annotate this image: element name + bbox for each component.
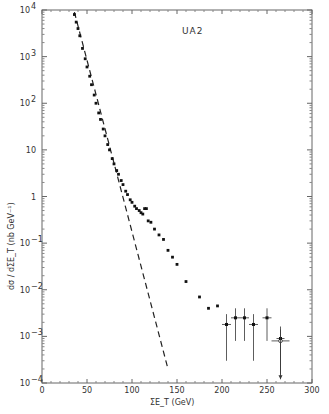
y-tick-exponent: 3 — [31, 49, 36, 58]
data-point — [106, 143, 109, 146]
y-tick-label: 10 — [20, 379, 30, 388]
tick-labels: 05010015020025030010410310210110−110−210… — [20, 2, 320, 395]
axis-ticks — [42, 10, 312, 383]
data-point — [99, 118, 102, 121]
data-point — [77, 27, 80, 30]
data-point — [86, 66, 89, 69]
data-point — [158, 234, 161, 237]
y-tick-exponent: −3 — [31, 328, 43, 337]
data-point — [162, 238, 165, 241]
data-point — [147, 219, 150, 222]
dashed-line — [74, 12, 168, 369]
y-tick-exponent: 2 — [31, 95, 36, 104]
plot-frame — [42, 10, 312, 383]
data-point — [75, 21, 78, 24]
data-point — [234, 316, 237, 319]
data-point — [129, 198, 132, 201]
y-tick-exponent: −2 — [31, 282, 43, 291]
x-tick-label: 200 — [214, 386, 229, 395]
data-point — [216, 305, 219, 308]
data-point — [153, 228, 156, 231]
y-tick-label: 10 — [26, 146, 36, 155]
data-point — [126, 193, 129, 196]
experiment-label: UA2 — [182, 26, 203, 36]
data-point — [117, 173, 120, 176]
data-point — [243, 316, 246, 319]
data-point — [185, 280, 188, 283]
plot-axes — [42, 10, 312, 383]
data-point — [207, 307, 210, 310]
data-point — [135, 207, 138, 210]
x-tick-label: 300 — [304, 386, 319, 395]
x-tick-label: 0 — [39, 386, 44, 395]
data-point — [73, 13, 76, 16]
data-point — [120, 179, 123, 182]
data-point — [93, 94, 96, 97]
data-point — [167, 249, 170, 252]
data-point — [150, 221, 153, 224]
data-point — [145, 207, 148, 210]
data-point — [171, 256, 174, 259]
data-point — [108, 148, 111, 151]
x-tick-label: 50 — [82, 386, 92, 395]
y-tick-label: 10 — [20, 239, 30, 248]
data-point — [252, 323, 255, 326]
x-tick-label: 250 — [259, 386, 274, 395]
data-point — [176, 263, 179, 266]
y-axis-title: dσ / dΣE_T (nb GeV⁻¹) — [7, 202, 16, 290]
data-point — [84, 57, 87, 60]
data-point — [225, 323, 228, 326]
y-tick-exponent: 4 — [31, 2, 36, 11]
data-point — [97, 112, 100, 115]
data-point — [266, 316, 269, 319]
y-tick-label: 10 — [20, 286, 30, 295]
x-axis-title: ΣE_T (GeV) — [150, 398, 194, 407]
y-tick-label: 10 — [20, 53, 30, 62]
y-tick-exponent: −4 — [31, 375, 43, 384]
chart: 05010015020025030010410310210110−110−210… — [0, 0, 329, 414]
y-tick-label: 10 — [20, 332, 30, 341]
data-point — [131, 201, 134, 204]
data-point — [198, 296, 201, 299]
data-point — [78, 34, 81, 37]
y-tick-label: 10 — [20, 6, 30, 15]
data-points — [73, 13, 290, 379]
data-point — [115, 169, 118, 172]
data-point — [104, 134, 107, 137]
dashed-extrapolation-line — [74, 12, 168, 369]
data-point — [111, 157, 114, 160]
data-point — [133, 205, 136, 208]
data-point — [102, 128, 105, 131]
data-point — [124, 190, 127, 193]
x-tick-label: 150 — [169, 386, 184, 395]
data-point — [90, 83, 93, 86]
y-tick-label: 10 — [20, 99, 30, 108]
data-point — [95, 102, 98, 105]
data-point — [122, 183, 125, 186]
y-tick-exponent: −1 — [31, 235, 43, 244]
data-point — [88, 75, 91, 78]
arrow-down-icon — [279, 375, 283, 379]
data-point — [81, 47, 84, 50]
y-tick-label: 1 — [31, 193, 36, 202]
data-point — [141, 213, 144, 216]
x-tick-label: 100 — [124, 386, 139, 395]
data-point — [113, 163, 116, 166]
